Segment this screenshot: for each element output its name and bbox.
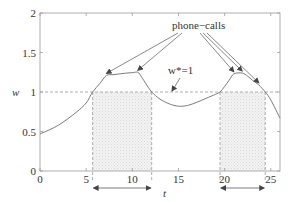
shaded-region xyxy=(220,92,265,171)
phone-call-arrow xyxy=(203,33,242,71)
phone-calls-label: phone−calls xyxy=(172,19,225,31)
x-axis-label: t xyxy=(163,187,167,199)
x-tick-label: 0 xyxy=(37,173,43,185)
phone-call-arrow xyxy=(207,33,259,83)
shaded-region xyxy=(93,92,152,171)
threshold-label: w*=1 xyxy=(168,64,193,76)
x-tick-label: 5 xyxy=(83,173,89,185)
y-tick-label: 0.5 xyxy=(22,126,36,138)
y-axis-label: w xyxy=(12,86,20,98)
y-tick-label: 2 xyxy=(31,7,37,19)
chart: 051015202500.511.52 w t phone−calls w*=1 xyxy=(0,0,295,202)
y-tick-label: 0 xyxy=(31,165,37,177)
x-tick-label: 20 xyxy=(219,173,231,185)
x-tick-label: 25 xyxy=(265,173,277,185)
y-tick-label: 1 xyxy=(31,86,37,98)
shaded-regions xyxy=(93,92,266,171)
annotations xyxy=(106,33,258,91)
phone-call-arrow xyxy=(200,33,234,72)
threshold-arrow xyxy=(172,78,180,91)
y-tick-label: 1.5 xyxy=(22,47,36,59)
x-tick-label: 10 xyxy=(127,173,139,185)
x-tick-label: 15 xyxy=(173,173,185,185)
